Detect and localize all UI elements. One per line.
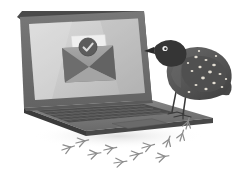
bird-pupil [164, 48, 166, 50]
illustration-scene [0, 0, 245, 178]
illustration-canvas: Grayscale illustration of an open laptop… [0, 0, 245, 178]
